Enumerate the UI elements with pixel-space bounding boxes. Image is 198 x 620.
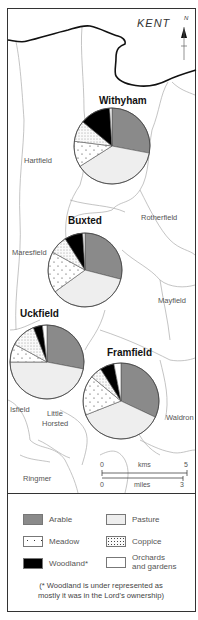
arable-swatch — [23, 514, 43, 525]
place-label: Isfield — [10, 405, 30, 414]
place-label: Mayfield — [158, 296, 186, 305]
parish-name: Uckfield — [20, 308, 59, 319]
county-boundary — [8, 26, 196, 86]
pie-slice-arable — [47, 325, 84, 369]
place-label: Maresfield — [12, 248, 47, 257]
parish-name: Framfield — [107, 347, 152, 358]
pie-framfield: Framfield — [83, 347, 159, 439]
legend-item-orchards: Orchardsand gardens — [106, 553, 176, 571]
svg-text:5: 5 — [184, 461, 188, 468]
svg-text:kms: kms — [138, 461, 151, 468]
legend-label: Woodland* — [49, 559, 88, 568]
svg-text:miles: miles — [134, 481, 151, 488]
legend-label: Meadow — [49, 537, 79, 546]
pie-slice-pasture — [10, 362, 83, 399]
pie-withyham: Withyham — [74, 95, 150, 184]
legend-item-meadow: Meadow — [23, 536, 79, 547]
pie-uckfield: Uckfield — [10, 308, 84, 399]
pie-slice-arable — [112, 108, 150, 153]
place-label: Ringmer — [23, 474, 52, 483]
coppice-swatch — [106, 536, 126, 547]
svg-text:0: 0 — [100, 481, 104, 488]
pie-charts: WithyhamBuxtedUckfieldFramfield — [10, 95, 159, 439]
legend: Arable Pasture Meadow Coppice Woodland* … — [7, 494, 195, 611]
pie-buxted: Buxted — [48, 215, 122, 307]
legend-footnote: (* Woodland is under represented asmostl… — [7, 581, 195, 601]
legend-label: Orchardsand gardens — [132, 553, 176, 571]
legend-item-woodland: Woodland* — [23, 558, 88, 569]
orchards-swatch — [106, 557, 126, 568]
place-label: Horsted — [42, 419, 68, 428]
place-label: Rotherfield — [141, 213, 177, 222]
parish-name: Withyham — [99, 95, 147, 106]
scale-bar: 0 kms 5 0 miles 3 — [100, 461, 188, 488]
svg-text:3: 3 — [180, 481, 184, 488]
legend-item-arable: Arable — [23, 514, 72, 525]
place-label: Waldron — [166, 413, 194, 422]
svg-text:0: 0 — [100, 461, 104, 468]
region-label-kent: KENT — [137, 17, 171, 29]
legend-label: Coppice — [132, 537, 161, 546]
legend-item-pasture: Pasture — [106, 514, 160, 525]
north-arrow-icon: N — [181, 15, 189, 60]
meadow-swatch — [23, 536, 43, 547]
place-label: Little — [47, 409, 63, 418]
legend-item-coppice: Coppice — [106, 536, 161, 547]
pasture-swatch — [106, 514, 126, 525]
legend-label: Arable — [49, 515, 72, 524]
woodland-swatch — [23, 558, 43, 569]
svg-text:N: N — [184, 15, 189, 21]
legend-label: Pasture — [132, 515, 160, 524]
place-label: Hartfield — [24, 156, 52, 165]
parish-name: Buxted — [68, 215, 102, 226]
